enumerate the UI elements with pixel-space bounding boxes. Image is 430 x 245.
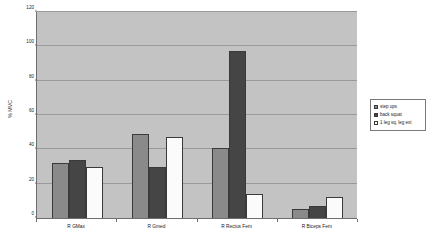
legend-swatch-icon (374, 121, 378, 125)
y-axis-tick-label: 120 (26, 5, 34, 10)
bar[interactable] (292, 209, 309, 218)
x-axis-tickmark (36, 219, 37, 222)
bar[interactable] (166, 137, 183, 218)
x-axis-tickmark (357, 219, 358, 222)
bar-groups (37, 12, 357, 218)
y-axis-title: % MVC (7, 87, 13, 131)
plot-area-wrapper: 020406080100120 (36, 12, 357, 219)
x-axis-label: R Gmed (116, 224, 196, 229)
bar-chart: % MVC 020406080100120 R GMaxR GmedR Rect… (0, 0, 430, 245)
x-axis-tickmark (277, 219, 278, 222)
legend-item[interactable]: 1 leg sq, leg ext (374, 119, 423, 127)
legend-swatch-icon (374, 113, 378, 117)
legend-item[interactable]: step ups (374, 103, 423, 111)
bar[interactable] (52, 163, 69, 218)
plot-area: 020406080100120 (36, 12, 357, 219)
legend-label: step ups (380, 105, 397, 110)
bar-group (277, 12, 357, 218)
x-axis-label: R Biceps Fem (277, 224, 357, 229)
x-axis-label: R Rectus Fem (197, 224, 277, 229)
bar-group (37, 12, 117, 218)
y-axis-tick-label: 80 (29, 73, 34, 78)
bar[interactable] (149, 167, 166, 219)
y-axis-tick-label: 40 (29, 142, 34, 147)
legend-swatch-icon (374, 105, 378, 109)
bar[interactable] (212, 148, 229, 218)
x-axis-labels: R GMaxR GmedR Rectus FemR Biceps Fem (36, 224, 357, 229)
bar[interactable] (229, 51, 246, 218)
bar[interactable] (246, 194, 263, 218)
bar-group (117, 12, 197, 218)
y-axis-tick-label: 100 (26, 39, 34, 44)
bar[interactable] (309, 206, 326, 218)
x-axis-tickmark (116, 219, 117, 222)
chart-legend: step upsback squat1 leg sq, leg ext (370, 99, 426, 131)
y-axis-tick-label: 20 (29, 176, 34, 181)
bar[interactable] (86, 167, 103, 219)
legend-label: back squat (380, 113, 402, 118)
legend-label: 1 leg sq, leg ext (380, 121, 412, 126)
bar-group (197, 12, 277, 218)
bar[interactable] (132, 134, 149, 218)
y-axis-tick-label: 60 (29, 108, 34, 113)
x-axis-label: R GMax (36, 224, 116, 229)
y-axis-tick-label: 0 (31, 211, 34, 216)
x-axis-tickmarks (36, 219, 357, 223)
bar[interactable] (69, 160, 86, 218)
bar[interactable] (326, 197, 343, 218)
x-axis-tickmark (197, 219, 198, 222)
legend-item[interactable]: back squat (374, 111, 423, 119)
